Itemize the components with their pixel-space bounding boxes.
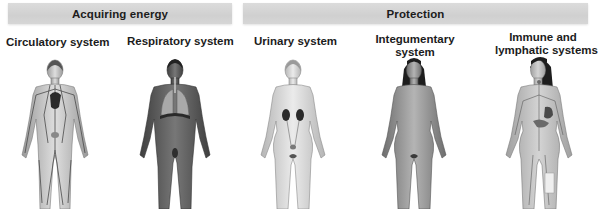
urinary-figure xyxy=(253,55,333,209)
integumentary-figure xyxy=(374,55,454,209)
circulatory-figure xyxy=(14,55,96,209)
label-circulatory-system: Circulatory system xyxy=(6,36,102,49)
group-header-label: Acquiring energy xyxy=(72,8,168,20)
label-line: Immune and xyxy=(495,31,591,44)
label-immune-lymphatic-systems: Immune and lymphatic systems xyxy=(495,31,591,57)
group-header-protection: Protection xyxy=(243,3,588,24)
label-line: Integumentary xyxy=(375,33,455,46)
label-respiratory-system: Respiratory system xyxy=(127,35,227,48)
immune-lymphatic-figure xyxy=(497,55,581,209)
male-body-respiratory-icon xyxy=(134,55,216,209)
respiratory-figure xyxy=(134,55,216,209)
label-urinary-system: Urinary system xyxy=(254,35,338,48)
female-body-urinary-icon xyxy=(253,55,333,209)
female-body-immune-lymphatic-icon xyxy=(497,55,581,209)
group-header-acquiring-energy: Acquiring energy xyxy=(8,3,232,24)
group-header-label: Protection xyxy=(387,8,445,20)
male-body-circulatory-icon xyxy=(14,55,96,209)
female-body-integumentary-icon xyxy=(374,55,454,209)
